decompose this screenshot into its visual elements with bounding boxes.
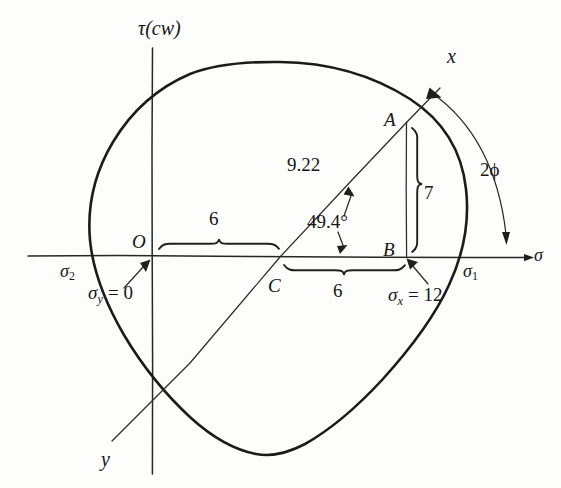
- angle-value-label: 49.4°: [307, 212, 348, 231]
- point-label-c: C: [268, 276, 281, 295]
- sigma-1-glyph: σ: [463, 261, 472, 281]
- sigma-2-glyph: σ: [60, 261, 69, 281]
- sigma-y-subscript: y: [97, 292, 103, 306]
- point-label-b: B: [383, 240, 395, 259]
- sigma-x-leader: [407, 259, 429, 285]
- mohrs-circle-figure: τ(cw) x y σ A B C O 9.22 49.4° 7 6 6 2ϕ …: [0, 0, 561, 488]
- sigma-y-glyph: σ: [88, 282, 97, 303]
- sigma-axis-label: σ: [534, 246, 543, 264]
- angle-value-leader: [337, 232, 348, 254]
- point-label-o: O: [132, 232, 146, 251]
- brace-six-left: [159, 240, 279, 249]
- sigma-1-subscript: 1: [472, 269, 478, 283]
- sigma-x-subscript: x: [397, 294, 403, 308]
- tau-axis-line: [152, 48, 153, 474]
- tau-axis-label: τ(cw): [138, 18, 181, 38]
- x-ray-label: x: [447, 46, 456, 66]
- y-ray-label: y: [101, 449, 110, 469]
- vertical-leg-label: 7: [424, 183, 434, 202]
- point-label-a: A: [384, 110, 396, 129]
- sigma-x-glyph: σ: [388, 284, 397, 305]
- sigma-x-value-label: σx= 12: [388, 285, 442, 307]
- sigma-2-label: σ2: [60, 262, 75, 283]
- sigma-y-value-label: σy= 0: [88, 283, 133, 305]
- offset-left-label: 6: [209, 209, 219, 228]
- offset-right-label: 6: [333, 281, 343, 300]
- sigma-1-label: σ1: [463, 262, 478, 283]
- mohrs-circle-drawing: [0, 0, 561, 488]
- sigma-y-equals-value: = 0: [108, 282, 133, 303]
- sigma-2-subscript: 2: [69, 269, 75, 283]
- radius-value-label: 9.22: [287, 155, 320, 174]
- brace-six-right: [284, 265, 405, 274]
- double-angle-label: 2ϕ: [480, 160, 500, 179]
- sigma-x-equals-value: = 12: [408, 284, 442, 305]
- brace-seven: [412, 128, 421, 252]
